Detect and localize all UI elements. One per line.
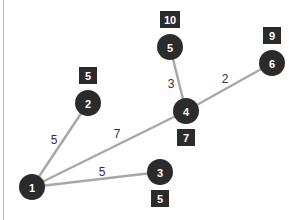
node-5-weight: 10 <box>164 14 176 26</box>
node-2-weight: 5 <box>85 70 91 82</box>
edge-label-1-4: 7 <box>114 127 121 141</box>
node-4-label: 4 <box>183 106 190 118</box>
node-3-weight: 5 <box>157 193 163 205</box>
node-2[interactable]: 5 2 <box>75 67 101 116</box>
node-6-label: 6 <box>269 58 275 70</box>
edge-4-6 <box>186 63 272 111</box>
node-3[interactable]: 3 5 <box>147 159 173 207</box>
node-1-label: 1 <box>29 182 35 194</box>
node-5[interactable]: 10 5 <box>157 11 183 60</box>
edge-label-1-2: 5 <box>51 133 58 147</box>
edge-label-4-5: 3 <box>168 77 175 91</box>
node-6-weight: 9 <box>269 30 275 42</box>
edge-1-3 <box>32 172 160 187</box>
node-5-label: 5 <box>167 42 173 54</box>
node-4[interactable]: 4 7 <box>173 98 199 146</box>
graph-diagram: 5 7 5 3 2 1 5 2 3 5 4 7 10 5 9 6 <box>0 0 298 220</box>
node-1[interactable]: 1 <box>19 174 45 200</box>
edge-label-4-6: 2 <box>222 72 229 86</box>
edge-labels: 5 7 5 3 2 <box>51 72 229 179</box>
edge-label-1-3: 5 <box>99 165 106 179</box>
node-3-label: 3 <box>157 167 163 179</box>
node-4-weight: 7 <box>183 132 189 144</box>
node-2-label: 2 <box>85 98 91 110</box>
node-6[interactable]: 9 6 <box>259 27 285 76</box>
